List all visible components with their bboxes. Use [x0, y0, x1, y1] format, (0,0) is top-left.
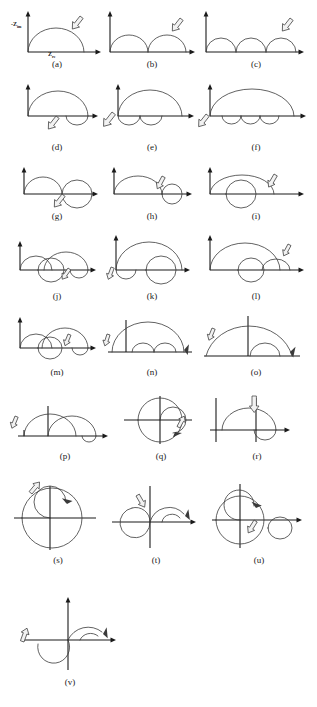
- axes-j: [18, 241, 96, 272]
- panel-b: [104, 6, 200, 56]
- direction-arrow-i: [265, 173, 279, 189]
- semicircle-1-g: [24, 177, 62, 194]
- panel-i: [200, 166, 312, 210]
- arc-large-n: [112, 322, 184, 352]
- semicircle-2-b: [148, 35, 186, 52]
- inductive-loop-1-f: [222, 116, 241, 124]
- axes-b: [108, 11, 195, 54]
- panel-v: [10, 592, 130, 674]
- right-hook-t: [150, 507, 184, 522]
- panel-label-f: (f): [200, 143, 312, 152]
- panel-a: -Zim Zre: [10, 6, 104, 56]
- panel-label-h: (h): [104, 212, 200, 221]
- axes-h: [112, 167, 192, 196]
- axes-m: [18, 317, 96, 350]
- panel-label-n: (n): [104, 368, 200, 377]
- panel-h: [104, 166, 200, 210]
- panel-label-l: (l): [200, 292, 312, 301]
- flow-arrowhead-n: [183, 344, 192, 356]
- panel-label-o: (o): [200, 368, 312, 377]
- panel-label-g: (g): [10, 212, 104, 221]
- panel-label-p: (p): [10, 452, 120, 461]
- panel-r: [202, 392, 312, 448]
- direction-arrow-k: [105, 266, 116, 280]
- panel-m: [10, 312, 104, 364]
- panel-g: [10, 166, 104, 210]
- semicircle-main-a: [28, 28, 84, 52]
- semicircle-main-f: [210, 89, 294, 116]
- flow-arrowhead-v: [101, 627, 112, 639]
- arc-right-p: [48, 416, 96, 436]
- semicircle-1-c: [206, 38, 236, 52]
- axes-v: [22, 597, 116, 670]
- axes-n: [108, 320, 192, 352]
- right-inner-t: [162, 514, 180, 522]
- direction-arrow-g: [51, 193, 67, 210]
- axes-p: [18, 406, 108, 438]
- panel-o: [200, 312, 312, 364]
- y-axis-label-a: -Zim: [11, 21, 22, 29]
- panel-label-m: (m): [10, 368, 104, 377]
- panel-c: [200, 6, 312, 56]
- semicircle-large-l: [210, 243, 280, 270]
- flow-arrowhead-s: [62, 497, 73, 505]
- direction-arrow-j: [59, 267, 72, 281]
- semicircle-1-n: [132, 343, 154, 352]
- axes-c: [204, 11, 304, 54]
- direction-arrow-t: [134, 493, 148, 509]
- inner-spiral-u: [224, 490, 254, 520]
- semicircle-main-d: [28, 91, 88, 116]
- semicircle-large-j: [44, 252, 88, 270]
- loop-right-m: [72, 348, 88, 355]
- semicircle-1-h: [114, 176, 162, 194]
- panel-p: [10, 392, 120, 448]
- loop-right-p: [82, 436, 96, 442]
- inductive-loop-d: [66, 116, 88, 125]
- panel-d: [10, 82, 104, 138]
- panel-label-k: (k): [104, 292, 200, 301]
- panel-label-c: (c): [200, 60, 312, 69]
- loop-small-k: [116, 270, 136, 279]
- loop-right-j: [70, 270, 88, 278]
- direction-arrow-c: [279, 17, 295, 34]
- panel-label-d: (d): [10, 143, 104, 152]
- direction-arrow-r: [249, 396, 259, 413]
- panel-label-s: (s): [10, 556, 106, 565]
- panel-label-r: (r): [202, 452, 312, 461]
- axes-s: [14, 486, 96, 550]
- semicircle-small-m: [20, 334, 52, 348]
- panel-label-i: (i): [200, 212, 312, 221]
- semicircle-main-e: [118, 90, 182, 116]
- axes-g: [22, 167, 98, 196]
- axes-k: [114, 235, 190, 272]
- axes-u: [212, 484, 302, 548]
- axes-d: [26, 84, 98, 118]
- flow-arrowhead-t: [183, 509, 194, 521]
- axes-a: [26, 11, 101, 54]
- direction-arrow-d: [45, 115, 61, 132]
- panel-n: [104, 312, 200, 364]
- panel-label-u: (u): [206, 556, 312, 565]
- panel-f: [200, 82, 312, 138]
- direction-arrow-p: [8, 415, 20, 429]
- direction-arrow-a: [69, 15, 85, 32]
- panel-j: [10, 232, 104, 288]
- panel-label-v: (v): [10, 678, 130, 687]
- inductive-loop-3-f: [260, 116, 279, 124]
- semicircle-right-l: [262, 259, 290, 270]
- panel-label-t: (t): [106, 556, 206, 565]
- semicircle-small-o: [250, 343, 280, 356]
- inner-hook-v: [80, 633, 98, 640]
- semicircle-2-c: [236, 38, 266, 52]
- panel-u: [206, 478, 312, 552]
- panel-l: [200, 232, 312, 288]
- panel-label-j: (j): [10, 292, 104, 301]
- inductive-loop-2-e: [140, 116, 162, 125]
- semicircle-2-n: [154, 343, 176, 352]
- panel-label-a: (a): [10, 60, 104, 69]
- inductive-loop-1-e: [118, 116, 140, 125]
- semicircle-large-k: [116, 242, 182, 270]
- s-bridge-t: [132, 507, 150, 522]
- panel-label-b: (b): [104, 60, 200, 69]
- left-loop-t: [120, 508, 150, 538]
